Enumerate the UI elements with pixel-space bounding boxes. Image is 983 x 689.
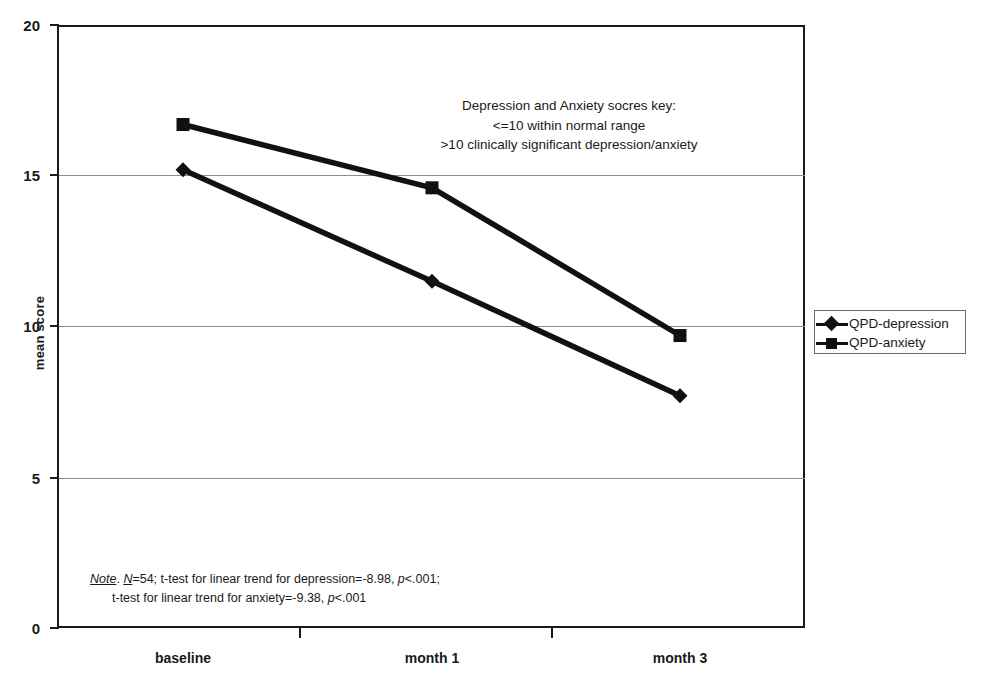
scores-key-line-3: >10 clinically significant depression/an… xyxy=(404,135,734,155)
ytick-mark-15 xyxy=(50,174,59,176)
note-period: . xyxy=(116,572,119,586)
p-symbol-1: p xyxy=(398,572,405,586)
gridline-15 xyxy=(57,175,805,176)
xtick-label-baseline: baseline xyxy=(155,650,211,666)
ytick-mark-5 xyxy=(50,477,59,479)
ytick-label-15: 15 xyxy=(6,168,40,183)
legend-item-qpd-depression[interactable]: QPD-depression xyxy=(815,314,965,333)
ytick-label-20: 20 xyxy=(6,18,40,33)
xtick-label-month-1: month 1 xyxy=(405,650,459,666)
scores-key-line-1: Depression and Anxiety socres key: xyxy=(404,96,734,116)
xtick-mark-2 xyxy=(551,628,553,638)
note-line2-tail: <.001 xyxy=(335,591,367,605)
diamond-marker-icon xyxy=(815,315,849,333)
legend-item-qpd-anxiety[interactable]: QPD-anxiety xyxy=(815,333,965,352)
note-line2-head: t-test for linear trend for anxiety=-9.3… xyxy=(112,591,328,605)
xtick-label-month-3: month 3 xyxy=(653,650,707,666)
xtick-mark-1 xyxy=(299,628,301,638)
gridline-10 xyxy=(57,326,805,327)
ytick-mark-20 xyxy=(50,24,59,26)
scores-key-line-2: <=10 within normal range xyxy=(404,116,734,136)
y-axis-title: mean score xyxy=(32,296,47,370)
gridline-5 xyxy=(57,478,805,479)
ytick-label-0: 0 xyxy=(6,621,40,636)
ytick-mark-10 xyxy=(50,325,59,327)
chart-figure: 20 15 10 5 0 mean score baseline month 1… xyxy=(0,0,983,689)
square-marker-icon xyxy=(815,334,849,352)
legend: QPD-depression QPD-anxiety xyxy=(814,310,966,354)
legend-label-qpd-anxiety: QPD-anxiety xyxy=(849,336,926,350)
ytick-mark-0 xyxy=(50,627,59,629)
note-line1-rest: =54; t-test for linear trend for depress… xyxy=(132,572,397,586)
legend-label-qpd-depression: QPD-depression xyxy=(849,317,949,331)
note-line1-tail: <.001; xyxy=(405,572,440,586)
ytick-label-5: 5 xyxy=(6,471,40,486)
p-symbol-2: p xyxy=(328,591,335,605)
note-word: Note xyxy=(90,572,116,586)
statistics-note: Note. N=54; t-test for linear trend for … xyxy=(90,570,510,608)
statistics-note-line-2: t-test for linear trend for anxiety=-9.3… xyxy=(90,589,510,608)
scores-key-annotation: Depression and Anxiety socres key: <=10 … xyxy=(404,96,734,155)
